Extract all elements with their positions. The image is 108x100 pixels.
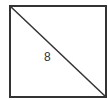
diagonal-line	[10, 6, 106, 97]
square-diagram: 8	[0, 0, 108, 100]
diagonal-length-label: 8	[44, 50, 51, 64]
